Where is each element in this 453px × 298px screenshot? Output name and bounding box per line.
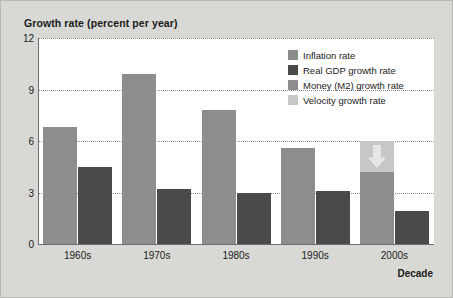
chart-figure: Growth rate (percent per year) 036912 19…: [0, 0, 453, 298]
legend-swatch-icon: [288, 50, 298, 60]
bar-real-gdp-1960s: [78, 167, 112, 244]
gridline-0: [38, 244, 434, 245]
bar-real-gdp-2000s: [395, 211, 429, 244]
legend-item: Real GDP growth rate: [288, 63, 438, 77]
bar-real-gdp-1990s: [316, 191, 350, 244]
x-axis-title: Decade: [397, 268, 433, 279]
velocity-arrow-down-2000s: [366, 144, 388, 169]
x-tick-label-1960s: 1960s: [64, 250, 91, 261]
y-tick-label: 9: [4, 84, 34, 95]
chart-legend: Inflation rateReal GDP growth rateMoney …: [288, 48, 438, 108]
x-tick-label-2000s: 2000s: [381, 250, 408, 261]
legend-swatch-icon: [288, 80, 298, 90]
bar-real-gdp-1970s: [157, 189, 191, 244]
gridline-12: [38, 38, 434, 39]
legend-item-label: Inflation rate: [303, 50, 355, 61]
bar-inflation-1980s: [202, 110, 236, 244]
legend-item: Inflation rate: [288, 48, 438, 62]
y-tick-label: 3: [4, 187, 34, 198]
legend-item: Velocity growth rate: [288, 93, 438, 107]
y-tick-label: 6: [4, 136, 34, 147]
chart-title: Growth rate (percent per year): [24, 17, 178, 29]
legend-item: Money (M2) growth rate: [288, 78, 438, 92]
bar-real-gdp-1980s: [237, 193, 271, 245]
bar-inflation-2000s: [360, 172, 394, 244]
legend-swatch-icon: [288, 65, 298, 75]
legend-item-label: Money (M2) growth rate: [303, 80, 404, 91]
bar-inflation-1990s: [281, 148, 315, 244]
y-axis-line: [38, 38, 39, 245]
y-tick-label: 12: [4, 33, 34, 44]
legend-swatch-icon: [288, 95, 298, 105]
x-tick-label-1970s: 1970s: [143, 250, 170, 261]
legend-item-label: Real GDP growth rate: [303, 65, 396, 76]
y-tick-label: 0: [4, 239, 34, 250]
legend-item-label: Velocity growth rate: [303, 95, 386, 106]
y-axis-tick-labels: 036912: [0, 38, 34, 244]
x-tick-label-1980s: 1980s: [222, 250, 249, 261]
bar-inflation-1960s: [43, 127, 77, 244]
x-tick-label-1990s: 1990s: [302, 250, 329, 261]
bar-inflation-1970s: [122, 74, 156, 244]
